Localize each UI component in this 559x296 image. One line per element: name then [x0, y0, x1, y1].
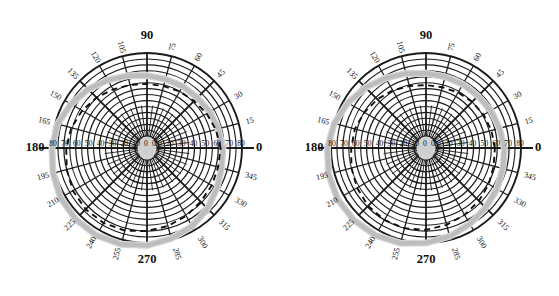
- angular-tick-label-45: 45: [215, 67, 227, 79]
- angular-tick-label-75: 75: [167, 42, 178, 52]
- angular-tick-label-315: 315: [217, 217, 232, 232]
- radial-tick-label-right-10: 10: [433, 139, 441, 148]
- angular-tick-label-0: 0: [256, 140, 262, 154]
- radial-tick-label-left-20: 20: [120, 139, 128, 148]
- angular-tick-label-60: 60: [192, 51, 204, 63]
- radial-tick-label-right-10: 10: [154, 139, 162, 148]
- angular-tick-label-255: 255: [111, 247, 123, 261]
- angular-tick-label-180: 180: [26, 140, 45, 154]
- radial-tick-label-right-50: 50: [481, 139, 489, 148]
- angular-tick-label-105: 105: [395, 40, 407, 54]
- radial-tick-label-left-40: 40: [376, 139, 384, 148]
- angular-tick-label-195: 195: [36, 170, 50, 182]
- angular-tick-label-120: 120: [89, 50, 103, 65]
- figure-root: 0153045607590105120135150165180195210225…: [0, 0, 559, 296]
- angular-tick-label-45: 45: [494, 67, 506, 79]
- radial-tick-label-left-80: 80: [49, 139, 57, 148]
- angular-tick-label-120: 120: [368, 50, 382, 65]
- grid-spoke: [147, 56, 172, 148]
- angular-tick-label-135: 135: [345, 66, 360, 81]
- radial-tick-label-left-0: 0: [144, 139, 148, 148]
- radial-tick-label-right-50: 50: [202, 139, 210, 148]
- angular-tick-label-90: 90: [141, 28, 154, 42]
- angular-tick-label-330: 330: [512, 195, 527, 209]
- radial-tick-label-left-70: 70: [61, 139, 69, 148]
- radial-tick-label-right-70: 70: [504, 139, 512, 148]
- radial-tick-label-left-50: 50: [85, 139, 93, 148]
- radial-tick-label-right-70: 70: [225, 139, 233, 148]
- angular-tick-label-15: 15: [524, 115, 534, 126]
- radial-tick-label-right-20: 20: [166, 139, 174, 148]
- angular-tick-label-165: 165: [316, 115, 330, 127]
- angular-tick-label-105: 105: [116, 40, 128, 54]
- grid-spoke: [147, 148, 172, 240]
- angular-tick-label-150: 150: [327, 88, 342, 102]
- grid-spoke: [122, 56, 147, 148]
- angular-tick-label-255: 255: [390, 247, 402, 261]
- radial-tick-label-left-30: 30: [388, 139, 396, 148]
- polar-panel-left[interactable]: 0153045607590105120135150165180195210225…: [0, 0, 280, 296]
- grid-spoke: [55, 148, 147, 173]
- radial-tick-label-left-70: 70: [340, 139, 348, 148]
- radial-tick-label-left-60: 60: [73, 139, 81, 148]
- radial-tick-label-left-30: 30: [109, 139, 117, 148]
- angular-tick-label-330: 330: [233, 195, 248, 209]
- radial-tick-label-right-60: 60: [492, 139, 500, 148]
- polar-chart-left-svg: 0153045607590105120135150165180195210225…: [0, 0, 280, 296]
- angular-tick-label-270: 270: [417, 252, 436, 266]
- angular-tick-label-300: 300: [475, 235, 489, 250]
- angular-tick-label-75: 75: [446, 42, 457, 52]
- grid-spoke: [401, 148, 426, 240]
- radial-tick-label-right-60: 60: [213, 139, 221, 148]
- polar-chart-right-svg: 0153045607590105120135150165180195210225…: [279, 0, 559, 296]
- angular-tick-label-135: 135: [66, 66, 81, 81]
- angular-tick-label-285: 285: [450, 247, 462, 261]
- angular-tick-label-300: 300: [196, 235, 210, 250]
- angular-tick-label-30: 30: [233, 89, 245, 101]
- grid-spoke: [122, 148, 147, 240]
- angular-tick-label-15: 15: [245, 115, 255, 126]
- angular-tick-label-195: 195: [315, 170, 329, 182]
- angular-tick-label-345: 345: [523, 170, 537, 182]
- angular-tick-label-150: 150: [48, 88, 63, 102]
- angular-tick-label-60: 60: [471, 51, 483, 63]
- radial-tick-label-left-40: 40: [97, 139, 105, 148]
- grid-spoke: [426, 56, 451, 148]
- radial-tick-label-left-0: 0: [423, 139, 427, 148]
- radial-tick-label-left-60: 60: [352, 139, 360, 148]
- radial-tick-label-left-10: 10: [132, 139, 140, 148]
- radial-tick-label-right-30: 30: [178, 139, 186, 148]
- radial-tick-label-left-50: 50: [364, 139, 372, 148]
- grid-spoke: [334, 148, 426, 173]
- radial-tick-label-right-40: 40: [469, 139, 477, 148]
- radial-label-group: 0010102020303040405050606070708080: [328, 139, 524, 148]
- angular-tick-label-180: 180: [305, 140, 324, 154]
- radial-tick-label-right-20: 20: [445, 139, 453, 148]
- radial-tick-label-right-40: 40: [190, 139, 198, 148]
- radial-tick-label-right-80: 80: [237, 139, 245, 148]
- radial-label-group: 0010102020303040405050606070708080: [49, 139, 245, 148]
- radial-tick-label-left-20: 20: [399, 139, 407, 148]
- angular-tick-label-315: 315: [496, 217, 511, 232]
- radial-tick-label-left-80: 80: [328, 139, 336, 148]
- angular-tick-label-0: 0: [535, 140, 541, 154]
- radial-tick-label-right-80: 80: [516, 139, 524, 148]
- angular-tick-label-345: 345: [244, 170, 258, 182]
- radial-tick-label-left-10: 10: [411, 139, 419, 148]
- radial-tick-label-right-30: 30: [457, 139, 465, 148]
- angular-tick-label-30: 30: [512, 89, 524, 101]
- angular-tick-label-285: 285: [171, 247, 183, 261]
- angular-tick-label-90: 90: [420, 28, 433, 42]
- angular-tick-label-165: 165: [37, 115, 51, 127]
- polar-panel-right[interactable]: 0153045607590105120135150165180195210225…: [279, 0, 559, 296]
- angular-tick-label-270: 270: [138, 252, 157, 266]
